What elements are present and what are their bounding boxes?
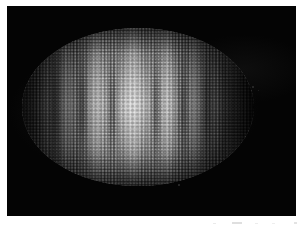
artifact-mark-5	[294, 222, 297, 224]
artifact-mark-4	[272, 223, 275, 224]
page-artifact-strip	[0, 216, 303, 228]
micrograph-panel	[7, 6, 296, 216]
dorsoventral-vignette	[22, 28, 254, 186]
artifact-mark-3	[255, 223, 258, 224]
speck-posterior	[252, 86, 254, 88]
artifact-mark-2	[232, 222, 242, 224]
embryo-body	[22, 28, 254, 186]
speck-ventral	[178, 184, 180, 186]
artifact-mark-1	[213, 223, 216, 224]
figure-root	[0, 0, 303, 228]
